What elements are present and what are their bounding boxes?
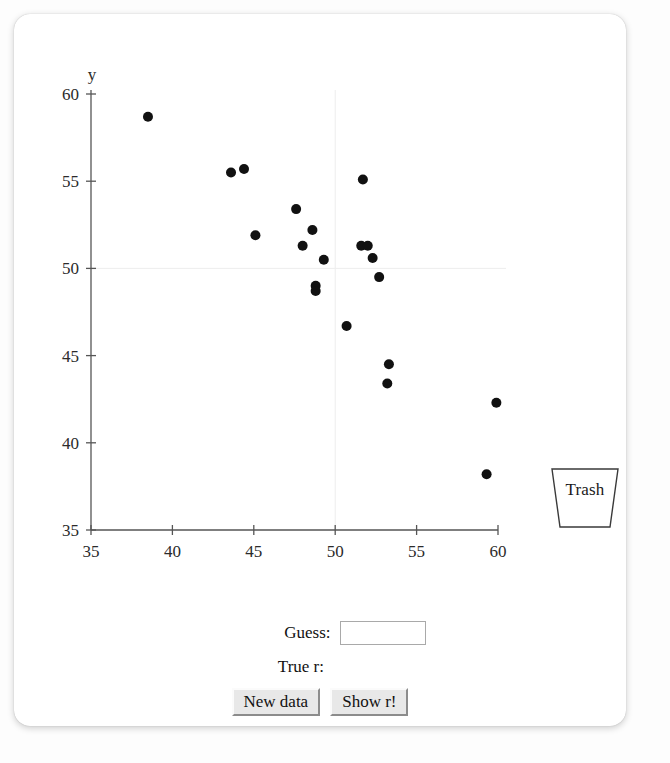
data-point[interactable]	[298, 241, 308, 251]
data-point[interactable]	[374, 272, 384, 282]
show-r-button[interactable]: Show r!	[330, 688, 408, 717]
data-point[interactable]	[143, 112, 153, 122]
data-point[interactable]	[291, 204, 301, 214]
data-point[interactable]	[382, 379, 392, 389]
data-point[interactable]	[319, 255, 329, 265]
y-tick-label: 45	[62, 347, 79, 366]
guess-row: Guess:	[14, 614, 626, 652]
y-axis-label: y	[88, 65, 97, 84]
data-point[interactable]	[250, 230, 260, 240]
x-tick-label: 40	[164, 542, 181, 561]
new-data-button[interactable]: New data	[232, 688, 321, 717]
data-point[interactable]	[363, 241, 373, 251]
y-tick-label: 50	[62, 259, 79, 278]
true-r-label: True r:	[208, 657, 333, 677]
data-point[interactable]	[307, 225, 317, 235]
trash-label: Trash	[546, 480, 624, 500]
x-tick-label: 50	[327, 542, 344, 561]
controls-panel: Guess: True r: New data Show r!	[14, 614, 626, 722]
data-point[interactable]	[239, 164, 249, 174]
x-axis-label: x	[165, 568, 174, 574]
data-point[interactable]	[311, 286, 321, 296]
data-point[interactable]	[482, 469, 492, 479]
x-tick-label: 55	[408, 542, 425, 561]
data-point[interactable]	[491, 398, 501, 408]
correlation-applet: 354045505560354045505560yx Trash Guess: …	[0, 0, 670, 763]
true-r-row: True r:	[14, 652, 626, 682]
scatter-plot-svg[interactable]: 354045505560354045505560yx	[14, 14, 626, 574]
trash-can[interactable]: Trash	[546, 466, 624, 530]
guess-input[interactable]	[340, 621, 426, 645]
y-tick-label: 40	[62, 434, 79, 453]
data-point[interactable]	[226, 167, 236, 177]
button-row: New data Show r!	[14, 682, 626, 722]
x-tick-label: 35	[83, 542, 100, 561]
x-tick-label: 60	[490, 542, 507, 561]
data-point[interactable]	[358, 174, 368, 184]
x-tick-label: 45	[245, 542, 262, 561]
y-tick-label: 35	[62, 521, 79, 540]
y-tick-label: 55	[62, 172, 79, 191]
scatter-plot[interactable]: 354045505560354045505560yx	[14, 14, 626, 574]
data-point[interactable]	[342, 321, 352, 331]
guess-label: Guess:	[215, 623, 340, 643]
y-tick-label: 60	[62, 85, 79, 104]
applet-card: 354045505560354045505560yx Trash Guess: …	[14, 14, 626, 726]
data-point[interactable]	[384, 359, 394, 369]
data-point[interactable]	[368, 253, 378, 263]
